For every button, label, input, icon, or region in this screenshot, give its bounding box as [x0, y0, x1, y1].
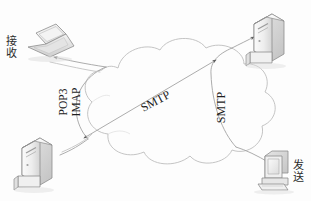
protocol-label-smtp-right: SMTP [214, 92, 229, 123]
link-laptop-secondary [50, 62, 100, 72]
laptop-icon [28, 24, 74, 62]
link-left-secondary [62, 134, 92, 152]
node-label-send: 发送 [291, 160, 305, 183]
node-label-receive: 接收 [4, 36, 18, 59]
link-to-receiving-server [232, 37, 254, 48]
link-sending-server-to-cloud [60, 139, 88, 155]
network-diagram: 接收 发送 POP3 IMAP SMTP SMTP [0, 0, 311, 201]
server-icon-sending [14, 138, 54, 193]
protocol-label-pop3: POP3 [57, 89, 69, 116]
server-icon-receiving [246, 14, 286, 69]
protocol-label-imap: IMAP [70, 88, 82, 117]
